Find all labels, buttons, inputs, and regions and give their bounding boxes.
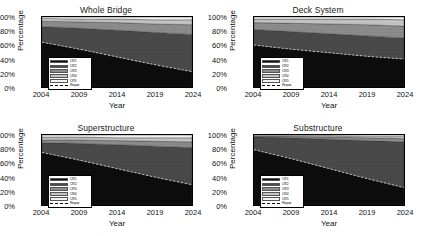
chart-legend: CR1CR2CR3CR4CR5Repair xyxy=(260,175,304,208)
legend-swatch-cr1-icon xyxy=(262,178,280,182)
legend-swatch-repair-icon xyxy=(50,203,68,204)
legend-item-cr2: CR2 xyxy=(262,182,302,186)
x-tick-2019: 2019 xyxy=(350,90,384,99)
legend-label: CR3 xyxy=(70,187,76,191)
x-tick-2009: 2009 xyxy=(274,90,308,99)
legend-label: CR5 xyxy=(70,197,76,201)
y-tick-40: 40% xyxy=(187,56,227,65)
y-tick-100: 100% xyxy=(187,13,227,22)
panel-title: Whole Bridge xyxy=(0,5,212,15)
legend-label: CR2 xyxy=(70,182,76,186)
y-tick-40: 40% xyxy=(187,174,227,183)
x-tick-2009: 2009 xyxy=(274,208,308,217)
legend-item-cr4: CR4 xyxy=(50,74,90,78)
legend-item-cr2: CR2 xyxy=(262,64,302,68)
panel-title: Deck System xyxy=(212,5,424,15)
legend-item-cr5: CR5 xyxy=(262,197,302,201)
legend-label: CR2 xyxy=(282,182,288,186)
legend-label: CR1 xyxy=(282,59,288,63)
legend-swatch-cr4-icon xyxy=(262,192,280,196)
legend-item-cr1: CR1 xyxy=(262,59,302,63)
panel-title: Substructure xyxy=(212,123,424,133)
legend-item-repair: Repair xyxy=(50,83,90,87)
legend-label: CR3 xyxy=(70,69,76,73)
x-tick-2014: 2014 xyxy=(100,208,134,217)
legend-item-cr2: CR2 xyxy=(50,64,90,68)
x-tick-2014: 2014 xyxy=(100,90,134,99)
legend-item-cr1: CR1 xyxy=(50,177,90,181)
legend-item-cr2: CR2 xyxy=(50,182,90,186)
legend-swatch-cr5-icon xyxy=(262,197,280,201)
x-tick-2004: 2004 xyxy=(236,90,270,99)
legend-item-repair: Repair xyxy=(262,201,302,205)
y-tick-80: 80% xyxy=(0,145,15,154)
y-tick-80: 80% xyxy=(0,27,15,36)
legend-label: CR4 xyxy=(70,74,76,78)
y-tick-0: 0% xyxy=(0,202,15,211)
legend-label: CR1 xyxy=(70,177,76,181)
y-tick-0: 0% xyxy=(187,202,227,211)
legend-label: CR4 xyxy=(70,192,76,196)
legend-label: CR5 xyxy=(70,79,76,83)
chart-panel-superstructure: Superstructure Percentage 100% 80% 60% 4… xyxy=(0,118,212,236)
legend-item-cr3: CR3 xyxy=(262,187,302,191)
x-tick-2014: 2014 xyxy=(312,90,346,99)
y-tick-80: 80% xyxy=(187,145,227,154)
legend-item-cr3: CR3 xyxy=(50,69,90,73)
y-tick-100: 100% xyxy=(0,131,15,140)
legend-item-cr5: CR5 xyxy=(50,79,90,83)
legend-label: CR1 xyxy=(70,59,76,63)
legend-item-repair: Repair xyxy=(50,201,90,205)
legend-item-cr4: CR4 xyxy=(262,74,302,78)
x-tick-2014: 2014 xyxy=(312,208,346,217)
legend-swatch-cr3-icon xyxy=(262,187,280,191)
legend-label: Repair xyxy=(70,83,79,87)
chart-panel-whole-bridge: Whole Bridge Percentage 100% 80% 60% 40%… xyxy=(0,0,212,118)
legend-item-cr5: CR5 xyxy=(50,197,90,201)
panel-title: Superstructure xyxy=(0,123,212,133)
legend-item-cr3: CR3 xyxy=(262,69,302,73)
legend-swatch-cr4-icon xyxy=(50,74,68,78)
y-tick-40: 40% xyxy=(0,174,15,183)
y-tick-80: 80% xyxy=(187,27,227,36)
y-tick-40: 40% xyxy=(0,56,15,65)
legend-swatch-repair-icon xyxy=(262,203,280,204)
legend-swatch-cr4-icon xyxy=(50,192,68,196)
legend-item-cr4: CR4 xyxy=(50,192,90,196)
x-axis-label: Year xyxy=(253,219,405,228)
legend-label: CR5 xyxy=(282,197,288,201)
legend-swatch-cr1-icon xyxy=(50,178,68,182)
legend-swatch-cr4-icon xyxy=(262,74,280,78)
y-tick-100: 100% xyxy=(0,13,15,22)
legend-label: CR4 xyxy=(282,74,288,78)
legend-swatch-repair-icon xyxy=(50,85,68,86)
legend-swatch-cr2-icon xyxy=(50,183,68,187)
legend-item-cr1: CR1 xyxy=(50,59,90,63)
legend-label: CR3 xyxy=(282,69,288,73)
x-tick-2009: 2009 xyxy=(62,90,96,99)
legend-swatch-cr3-icon xyxy=(50,187,68,191)
x-tick-2009: 2009 xyxy=(62,208,96,217)
legend-swatch-cr5-icon xyxy=(262,79,280,83)
figure-stacked-area-grid: Whole Bridge Percentage 100% 80% 60% 40%… xyxy=(0,0,424,236)
legend-label: Repair xyxy=(282,83,291,87)
legend-label: CR3 xyxy=(282,187,288,191)
y-tick-60: 60% xyxy=(0,41,15,50)
x-axis-label: Year xyxy=(41,219,193,228)
legend-swatch-repair-icon xyxy=(262,85,280,86)
legend-item-cr5: CR5 xyxy=(262,79,302,83)
x-tick-2019: 2019 xyxy=(350,208,384,217)
x-tick-2019: 2019 xyxy=(138,208,172,217)
y-tick-20: 20% xyxy=(0,188,15,197)
legend-swatch-cr2-icon xyxy=(262,183,280,187)
legend-swatch-cr1-icon xyxy=(262,60,280,64)
legend-swatch-cr5-icon xyxy=(50,79,68,83)
x-tick-2004: 2004 xyxy=(236,208,270,217)
legend-swatch-cr5-icon xyxy=(50,197,68,201)
y-axis-label: Percentage xyxy=(228,0,237,67)
legend-swatch-cr2-icon xyxy=(50,65,68,69)
x-tick-2024: 2024 xyxy=(388,90,422,99)
legend-swatch-cr2-icon xyxy=(262,65,280,69)
legend-label: CR2 xyxy=(70,64,76,68)
legend-item-repair: Repair xyxy=(262,83,302,87)
